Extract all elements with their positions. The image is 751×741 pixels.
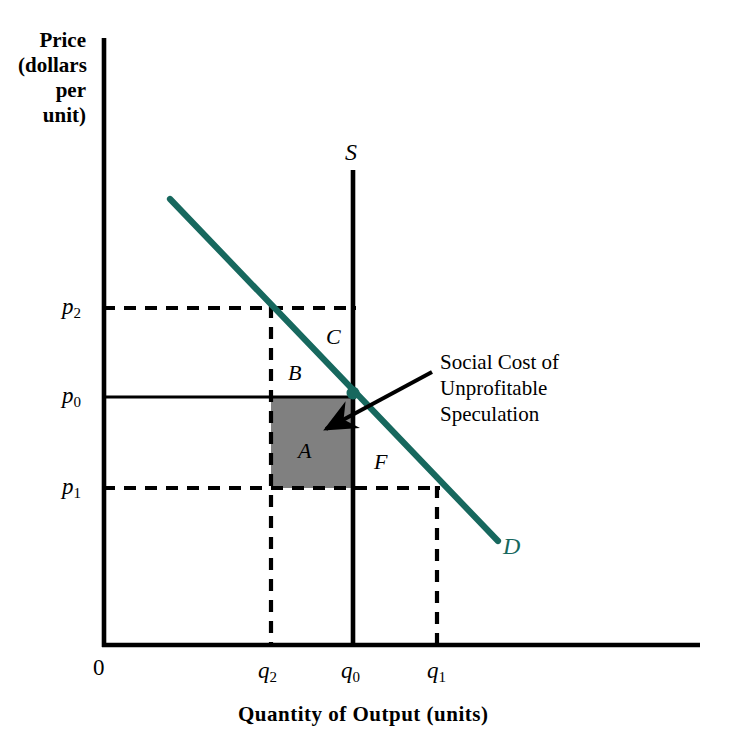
quantity-tick-q1: q1 [427,658,446,684]
quantity-tick-q1-main: q [427,658,439,683]
equilibrium-point-marker [347,387,360,400]
quantity-tick-q2-sub: 2 [270,669,278,685]
price-tick-p1-main: p [62,474,74,499]
supply-curve-label: S [345,139,357,166]
price-tick-p2-sub: 2 [74,305,82,321]
origin-label: 0 [93,655,105,681]
quantity-tick-q0-main: q [341,658,353,683]
price-tick-p2-main: p [62,294,74,319]
price-tick-p1: p1 [62,474,81,500]
price-tick-p2: p2 [62,294,81,320]
shaded-region-a [271,397,353,488]
region-label-b: B [288,360,301,386]
price-tick-p0-main: p [62,383,74,408]
price-tick-p1-sub: 1 [74,485,82,501]
price-tick-p0: p0 [62,383,81,409]
region-label-c: C [326,324,341,350]
quantity-tick-q2-main: q [258,658,270,683]
quantity-tick-q0: q0 [341,658,360,684]
figure-canvas: Price (dollars per unit) Quantity of Out… [0,0,751,741]
quantity-tick-q0-sub: 0 [353,669,361,685]
region-label-f: F [374,449,387,475]
region-label-a: A [298,438,311,464]
x-axis-title: Quantity of Output (units) [238,702,488,727]
social-cost-annotation: Social Cost of Unprofitable Speculation [440,349,559,427]
demand-curve-label: D [503,533,520,560]
quantity-tick-q2: q2 [258,658,277,684]
quantity-tick-q1-sub: 1 [439,669,447,685]
price-tick-p0-sub: 0 [74,394,82,410]
y-axis-title: Price (dollars per unit) [18,28,86,128]
supply-demand-svg [0,0,751,741]
